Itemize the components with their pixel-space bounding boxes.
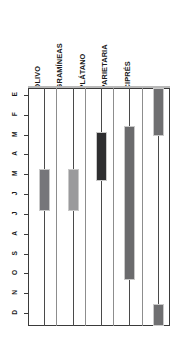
month-label-a2: A (12, 226, 19, 240)
grid-separator (142, 88, 143, 326)
month-label-o: O (12, 266, 19, 280)
month-tick (24, 234, 28, 235)
pollen-bar-parietaria (124, 126, 135, 281)
month-label-e: E (12, 87, 19, 101)
month-tick (24, 214, 28, 215)
month-tick (24, 154, 28, 155)
month-tick (24, 135, 28, 136)
month-label-f: F (12, 107, 19, 121)
series-axis-pltano (101, 88, 102, 326)
month-tick (24, 313, 28, 314)
species-label-parietaria: PARIETARIA (101, 44, 108, 89)
species-label-gramineas: GRAMÍNEAS (56, 43, 63, 89)
pollen-bar-pltano (96, 132, 107, 182)
pollen-calendar-chart: OLIVO GRAMÍNEAS PLÁTANO PARIETARIA CIPRÉ… (0, 0, 174, 348)
grid-separator (113, 88, 114, 326)
month-label-d: D (12, 305, 19, 319)
pollen-bar-gramneas (68, 169, 79, 211)
month-tick (24, 95, 28, 96)
grid-separator (85, 88, 86, 326)
month-tick (24, 174, 28, 175)
pollen-bar-olivo (39, 169, 50, 211)
month-label-m1: M (12, 127, 19, 141)
month-label-n: N (12, 285, 19, 299)
pollen-bar-ciprs-2 (153, 304, 164, 326)
month-tick (24, 115, 28, 116)
month-tick (24, 293, 28, 294)
month-tick (24, 254, 28, 255)
species-label-platano: PLÁTANO (79, 54, 86, 90)
month-label-j2: J (12, 206, 19, 220)
month-tick (24, 273, 28, 274)
pollen-bar-ciprs-1 (153, 88, 164, 136)
month-tick (24, 194, 28, 195)
month-label-a1: A (12, 147, 19, 161)
grid-separator (56, 88, 57, 326)
month-label-m2: M (12, 167, 19, 181)
month-label-j1: J (12, 186, 19, 200)
month-label-s: S (12, 246, 19, 260)
